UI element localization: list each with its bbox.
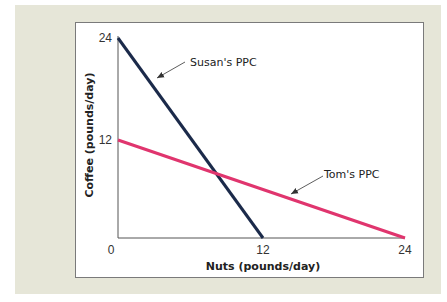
y-axis-label: Coffee (pounds/day) xyxy=(83,72,96,197)
tom-arrow-icon xyxy=(291,176,323,194)
tom-ppc-label: Tom's PPC xyxy=(323,168,380,181)
x-axis-label: Nuts (pounds/day) xyxy=(206,260,320,273)
ppc-chart: 24 12 0 12 24 Nuts (pounds/day) Coffee (… xyxy=(0,0,447,302)
y-tick-12: 12 xyxy=(99,133,113,147)
x-tick-24: 24 xyxy=(398,243,412,257)
susan-ppc-label: Susan's PPC xyxy=(190,56,257,69)
y-tick-24: 24 xyxy=(99,31,113,45)
x-tick-12: 12 xyxy=(256,243,270,257)
x-tick-0: 0 xyxy=(108,243,115,257)
susan-arrow-icon xyxy=(157,62,185,78)
tom-ppc-line xyxy=(118,140,405,238)
